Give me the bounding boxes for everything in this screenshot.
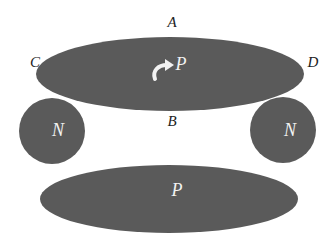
label-point-c: C [30,54,41,70]
label-left-circle: N [51,120,65,140]
label-point-d: D [307,54,319,70]
diagram-canvas: A B C D P N N P [0,0,336,245]
bottom-ellipse-p-region [40,165,298,233]
label-point-b: B [167,113,176,129]
label-point-a: A [166,14,177,30]
label-top-region: P [175,54,187,74]
label-bottom-region: P [171,180,183,200]
label-right-circle: N [283,120,297,140]
top-ellipse-p-region [36,37,304,111]
